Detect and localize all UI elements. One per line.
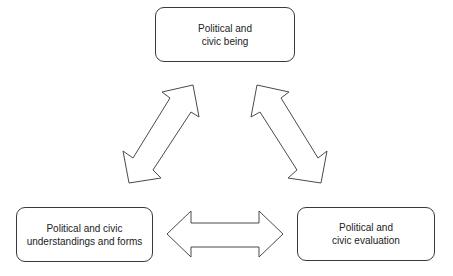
- node-label-line: Political and: [339, 221, 393, 234]
- node-label-line: civic being: [202, 35, 249, 48]
- node-political-civic-understandings: Political and civic understandings and f…: [16, 207, 153, 262]
- node-label-line: Political and civic: [46, 222, 122, 235]
- double-arrow-bottom: [167, 211, 283, 257]
- node-label-line: civic evaluation: [332, 234, 400, 247]
- node-label-line: understandings and forms: [27, 235, 143, 248]
- double-arrow-top-right: [251, 85, 327, 183]
- node-political-civic-evaluation: Political and civic evaluation: [297, 207, 435, 261]
- node-label-line: Political and: [198, 22, 252, 35]
- double-arrow-top-left: [123, 85, 199, 183]
- node-political-civic-being: Political and civic being: [155, 7, 295, 62]
